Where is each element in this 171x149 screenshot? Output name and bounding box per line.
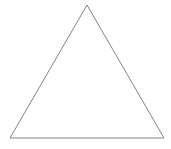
drawing-canvas (0, 0, 171, 149)
triangle-figure (0, 0, 171, 149)
canvas-background (0, 0, 171, 149)
